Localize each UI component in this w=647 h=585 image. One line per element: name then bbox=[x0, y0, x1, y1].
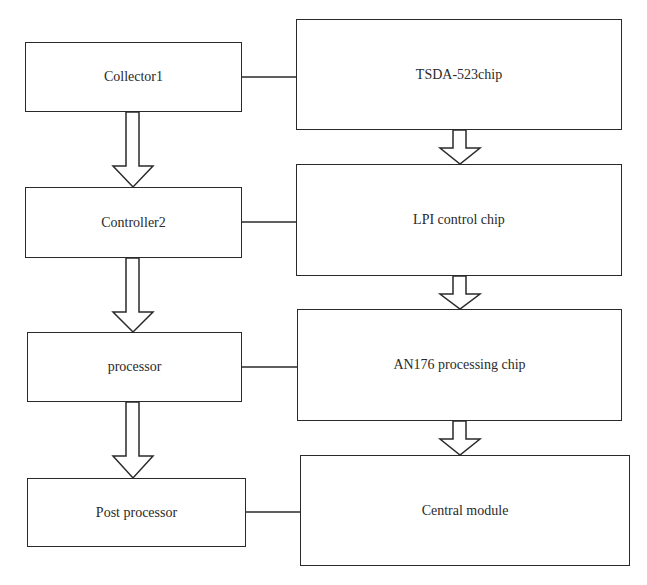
lpi-control-chip-box: LPI control chip bbox=[296, 164, 622, 276]
arrow-down-icon bbox=[440, 276, 480, 309]
arrow-down-icon bbox=[113, 402, 153, 478]
central-module-label: Central module bbox=[422, 503, 509, 519]
arrow-down-icon bbox=[440, 130, 480, 164]
an176-processing-chip-box: AN176 processing chip bbox=[297, 309, 622, 421]
central-module-box: Central module bbox=[300, 455, 630, 566]
controller2-label: Controller2 bbox=[101, 215, 166, 231]
collector1-box: Collector1 bbox=[25, 42, 242, 112]
arrow-down-icon bbox=[113, 112, 153, 187]
arrow-down-icon bbox=[113, 258, 153, 332]
an176-processing-chip-label: AN176 processing chip bbox=[393, 357, 525, 373]
lpi-control-chip-label: LPI control chip bbox=[413, 212, 505, 228]
controller2-box: Controller2 bbox=[25, 187, 242, 258]
post-processor-label: Post processor bbox=[96, 505, 177, 521]
arrow-down-icon bbox=[440, 421, 480, 455]
processor-label: processor bbox=[108, 359, 162, 375]
post-processor-box: Post processor bbox=[27, 478, 246, 547]
collector1-label: Collector1 bbox=[104, 69, 163, 85]
tsda-523chip-label: TSDA-523chip bbox=[416, 67, 502, 83]
tsda-523chip-box: TSDA-523chip bbox=[296, 19, 622, 130]
processor-box: processor bbox=[27, 332, 242, 402]
